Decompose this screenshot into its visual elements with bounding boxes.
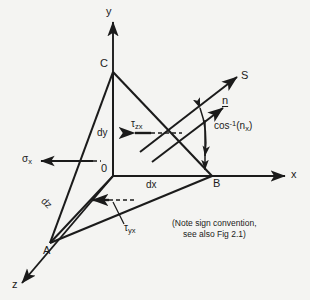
- tau-zx-label: τzx: [131, 119, 142, 131]
- axis-z: [22, 176, 113, 283]
- dimension-label-dy: dy: [97, 128, 108, 139]
- axis-z-label: z: [12, 279, 18, 291]
- vertex-label-b: B: [213, 178, 220, 190]
- sigma-subscript: x: [28, 157, 32, 166]
- angle-label-close: ): [249, 120, 252, 131]
- dimension-label-dx: dx: [146, 180, 157, 191]
- sigma-x-label: σx: [22, 154, 32, 166]
- tau-zx-subscript: zx: [135, 122, 143, 131]
- angle-label-open: (n: [236, 120, 245, 131]
- vertex-label-a: A: [43, 245, 50, 257]
- edge-c-a: [50, 72, 113, 243]
- direction-angle-indicator: [200, 108, 206, 170]
- axis-x-label: x: [291, 169, 297, 181]
- figure-note-line-1: (Note sign convention,: [172, 218, 257, 229]
- figure-note: (Note sign convention, see also Fig 2.1): [172, 218, 257, 241]
- edge-c-b: [113, 72, 212, 176]
- tau-yx-subscript: yx: [128, 226, 136, 235]
- figure-note-line-2: see also Fig 2.1): [172, 229, 257, 240]
- figure-canvas: y x z C B A 0 dy dx dz S n cos-1(nx) σx …: [0, 0, 310, 300]
- traction-vector-label-s: S: [241, 70, 248, 82]
- vertex-label-c: C: [100, 58, 108, 70]
- angle-label-cos: cos: [214, 120, 230, 131]
- axis-z-line: [22, 176, 113, 283]
- vertex-label-origin: 0: [101, 163, 107, 175]
- edge-o-a: [50, 176, 113, 243]
- normal-vector-label-n: n: [222, 95, 228, 107]
- direction-angle-label: cos-1(nx): [214, 120, 252, 133]
- tau-yx-label: τyx: [124, 223, 135, 235]
- axis-y-label: y: [106, 6, 112, 18]
